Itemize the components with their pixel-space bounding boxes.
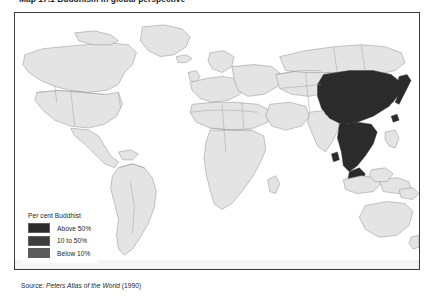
map-legend: Per cent Buddhist Above 50% 10 to 50% Be… — [23, 207, 97, 263]
source-atlas-title: Peters Atlas of the World — [46, 282, 120, 289]
legend-label-below-10: Below 10% — [57, 250, 90, 257]
legend-label-above-50: Above 50% — [57, 225, 91, 232]
source-note: Source: Peters Atlas of the World (1990) — [21, 282, 141, 289]
source-prefix: Source: — [21, 282, 44, 289]
figure-title: Map 17.1 Buddhism in global perspective — [19, 0, 185, 4]
legend-item-10-to-50: 10 to 50% — [28, 236, 91, 246]
source-year: (1990) — [122, 282, 141, 289]
legend-swatch-above-50 — [28, 223, 50, 233]
legend-label-10-to-50: 10 to 50% — [57, 237, 87, 244]
legend-title: Per cent Buddhist — [28, 212, 91, 219]
legend-item-below-10: Below 10% — [28, 248, 91, 258]
legend-swatch-below-10 — [28, 248, 50, 258]
legend-item-above-50: Above 50% — [28, 223, 91, 233]
legend-swatch-10-to-50 — [28, 236, 50, 246]
map-frame: .land { fill:#e4e4e4; stroke:#8d8d8d; st… — [14, 12, 420, 270]
